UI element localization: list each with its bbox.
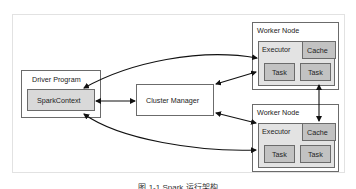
executor-2-box: Executor Cache Task Task <box>258 123 335 168</box>
task-2b-label: Task <box>308 150 323 159</box>
cache-2-box: Cache <box>302 123 336 141</box>
worker-node-1: Worker Node Executor Cache Task Task <box>252 22 339 90</box>
driver-program-box: Driver Program SparkContext <box>21 70 101 118</box>
task-1a-label: Task <box>272 68 287 77</box>
cluster-manager-label: Cluster Manager <box>146 96 199 105</box>
task-1a-box: Task <box>264 63 295 81</box>
worker-node-1-label: Worker Node <box>257 26 299 35</box>
task-2a-box: Task <box>264 145 295 163</box>
task-1b-label: Task <box>308 68 323 77</box>
cluster-manager-box: Cluster Manager <box>136 84 214 116</box>
task-2a-label: Task <box>272 150 287 159</box>
executor-1-box: Executor Cache Task Task <box>258 41 335 86</box>
driver-program-label: Driver Program <box>32 75 81 84</box>
spark-context-box: SparkContext <box>27 89 95 111</box>
executor-2-label: Executor <box>262 127 290 136</box>
task-2b-box: Task <box>300 145 331 163</box>
cache-1-box: Cache <box>302 41 336 59</box>
spark-context-label: SparkContext <box>37 96 81 105</box>
worker-node-2: Worker Node Executor Cache Task Task <box>252 104 339 172</box>
task-1b-box: Task <box>300 63 331 81</box>
cache-2-label: Cache <box>307 128 328 137</box>
cache-1-label: Cache <box>307 46 328 55</box>
worker-node-2-label: Worker Node <box>257 108 299 117</box>
executor-1-label: Executor <box>262 45 290 54</box>
figure-caption: 图 1-1 Spark 运行架构 <box>0 181 356 189</box>
